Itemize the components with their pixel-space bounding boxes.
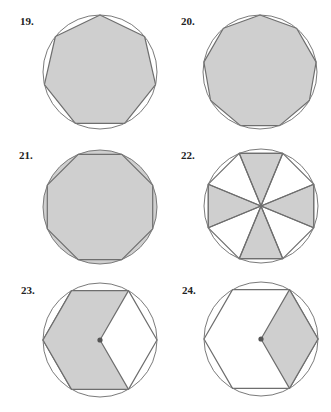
figure-20-nonagon bbox=[203, 15, 317, 129]
nonagon-shaded-polygon bbox=[204, 15, 316, 126]
figure-21-octagon-segments bbox=[43, 150, 157, 264]
figure-19-heptagon bbox=[43, 15, 157, 129]
figures-canvas bbox=[0, 0, 331, 412]
shaded-triangle-right bbox=[261, 184, 314, 228]
figure-24-hexagon-rhombus bbox=[204, 282, 318, 396]
shaded-triangle-top bbox=[239, 153, 283, 206]
exercise-figures-page: 19. 20. 21. 22. 23. 24. bbox=[0, 0, 331, 412]
figure-23-hexagon-chevron bbox=[43, 283, 157, 397]
heptagon-shaded-polygon bbox=[44, 15, 155, 123]
shaded-triangle-bottom bbox=[239, 206, 283, 259]
shaded-triangle-left bbox=[208, 184, 261, 228]
shaded-chevron-region bbox=[43, 291, 129, 390]
center-point-dot bbox=[97, 337, 102, 342]
shaded-rhombus-region bbox=[261, 290, 318, 389]
shaded-circle-segments bbox=[43, 150, 157, 264]
figure-22-octagon-triangles bbox=[204, 149, 318, 263]
center-point-dot bbox=[258, 336, 263, 341]
